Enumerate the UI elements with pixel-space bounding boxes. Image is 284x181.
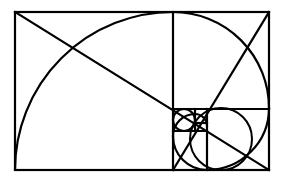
spiral-arc-3 [207,108,269,170]
diagram-svg [0,0,284,181]
spiral-arc-5 [173,114,195,136]
diagonal-main [15,12,269,170]
spiral-arc-2 [173,12,269,108]
golden-spiral-diagram [0,0,284,181]
spiral-arc-1 [15,12,173,170]
